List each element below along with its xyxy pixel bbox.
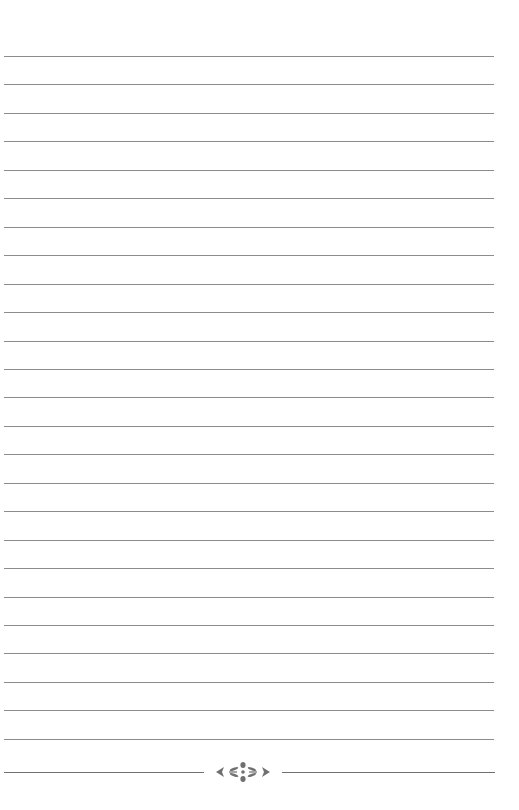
ruled-line [4, 312, 494, 313]
ruled-line [4, 653, 494, 654]
ornament-rule-left [4, 772, 204, 773]
ruled-line [4, 56, 494, 57]
ruled-line [4, 284, 494, 285]
ruled-line [4, 682, 494, 683]
floral-divider-icon [204, 760, 282, 784]
ruled-line [4, 198, 494, 199]
ruled-line [4, 141, 494, 142]
ruled-line [4, 597, 494, 598]
ruled-line [4, 255, 494, 256]
ruled-line [4, 710, 494, 711]
ruled-line [4, 625, 494, 626]
ruled-line [4, 397, 494, 398]
ruled-line [4, 341, 494, 342]
ruled-line [4, 511, 494, 512]
ruled-line [4, 227, 494, 228]
ruled-line [4, 84, 494, 85]
ruled-line [4, 170, 494, 171]
ruled-line [4, 369, 494, 370]
lined-page [0, 0, 519, 810]
ornament-rule-right [282, 772, 495, 773]
ruled-line [4, 454, 494, 455]
ruled-line [4, 568, 494, 569]
ruled-line [4, 540, 494, 541]
ruled-line [4, 113, 494, 114]
ruled-line [4, 426, 494, 427]
ruled-line [4, 739, 494, 740]
ruled-line [4, 483, 494, 484]
